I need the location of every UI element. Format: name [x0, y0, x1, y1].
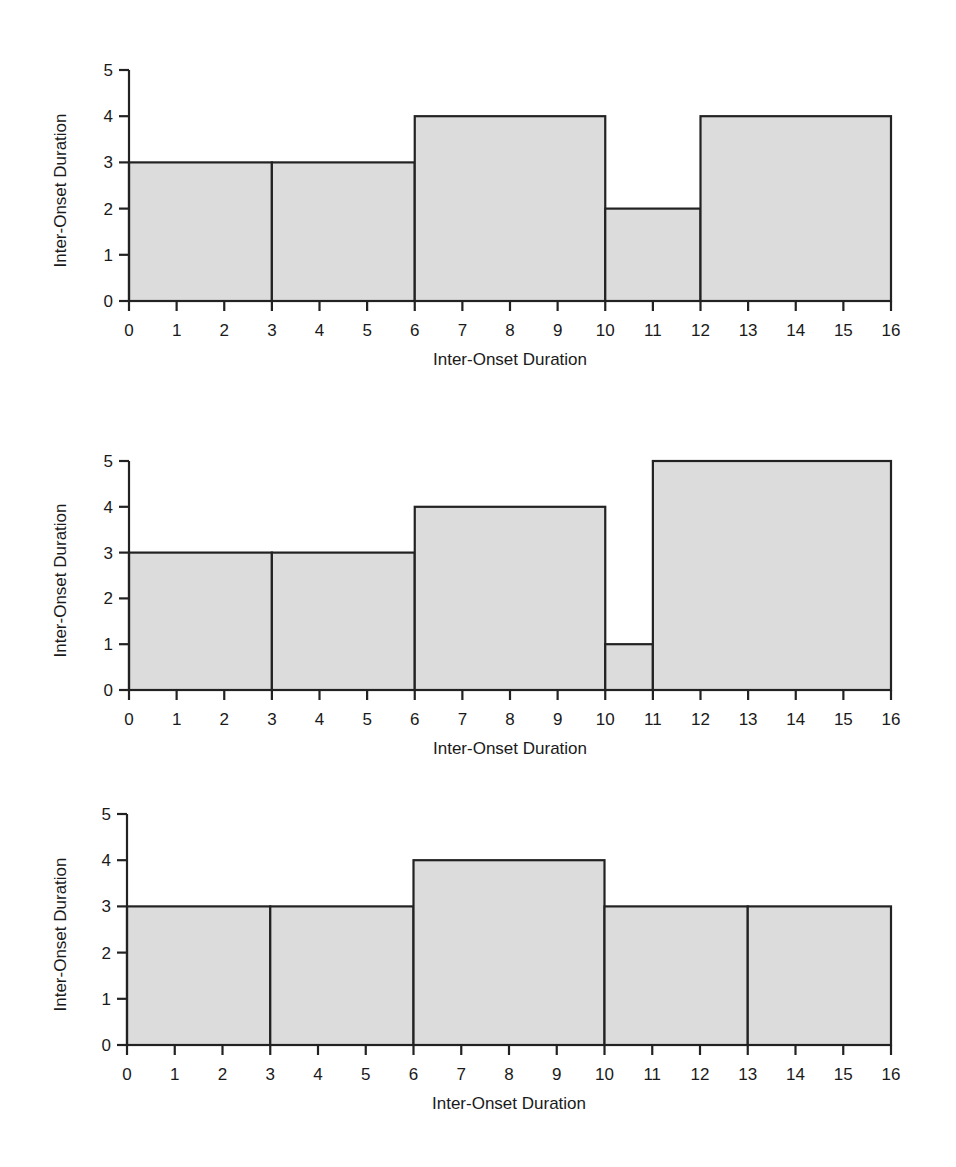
x-tick-label: 11 — [644, 321, 662, 340]
x-tick-label: 12 — [691, 321, 710, 340]
y-tick-label: 5 — [104, 61, 113, 80]
bar — [414, 860, 605, 1045]
chart-2: 012345012345678910111213141516Inter-Onse… — [51, 452, 900, 758]
chart-3: 012345012345678910111213141516Inter-Onse… — [51, 805, 900, 1113]
bar — [272, 162, 415, 301]
y-axis-title: Inter-Onset Duration — [51, 113, 70, 267]
x-tick-label: 16 — [882, 321, 901, 340]
x-tick-label: 9 — [553, 710, 562, 729]
x-tick-label: 12 — [691, 1065, 710, 1084]
x-tick-label: 11 — [643, 1065, 661, 1084]
bar — [272, 553, 415, 690]
y-tick-label: 5 — [104, 452, 113, 471]
x-tick-label: 16 — [882, 710, 901, 729]
x-tick-label: 2 — [220, 710, 229, 729]
x-tick-label: 5 — [362, 710, 371, 729]
x-tick-label: 13 — [738, 1065, 757, 1084]
bar — [415, 116, 606, 301]
x-tick-label: 1 — [170, 1065, 179, 1084]
x-tick-label: 12 — [691, 710, 710, 729]
y-tick-label: 2 — [104, 589, 113, 608]
x-tick-label: 10 — [596, 710, 615, 729]
y-tick-label: 4 — [102, 851, 111, 870]
x-tick-label: 7 — [458, 321, 467, 340]
x-tick-label: 6 — [409, 1065, 418, 1084]
x-tick-label: 15 — [834, 321, 853, 340]
y-tick-label: 1 — [104, 635, 113, 654]
x-axis-title: Inter-Onset Duration — [433, 350, 587, 369]
x-tick-label: 8 — [505, 710, 514, 729]
x-axis-title: Inter-Onset Duration — [433, 739, 587, 758]
x-tick-label: 0 — [124, 710, 133, 729]
y-tick-label: 0 — [102, 1036, 111, 1055]
x-tick-label: 14 — [786, 1065, 805, 1084]
x-tick-label: 4 — [313, 1065, 322, 1084]
x-tick-label: 4 — [315, 710, 324, 729]
x-tick-label: 3 — [266, 1065, 275, 1084]
y-tick-label: 1 — [102, 990, 111, 1009]
x-tick-label: 15 — [834, 710, 853, 729]
x-tick-label: 5 — [362, 321, 371, 340]
x-tick-label: 13 — [739, 321, 758, 340]
x-tick-label: 3 — [267, 710, 276, 729]
bar — [415, 507, 606, 690]
x-tick-label: 14 — [786, 321, 805, 340]
x-tick-label: 6 — [410, 710, 419, 729]
x-tick-label: 0 — [124, 321, 133, 340]
x-tick-label: 15 — [834, 1065, 853, 1084]
x-tick-label: 11 — [644, 710, 662, 729]
bar — [129, 162, 272, 301]
x-tick-label: 9 — [552, 1065, 561, 1084]
x-tick-label: 6 — [410, 321, 419, 340]
x-axis-title: Inter-Onset Duration — [432, 1094, 586, 1113]
y-tick-label: 4 — [104, 107, 113, 126]
y-axis-title: Inter-Onset Duration — [51, 503, 70, 657]
bar — [605, 209, 700, 301]
x-tick-label: 9 — [553, 321, 562, 340]
y-tick-label: 2 — [102, 944, 111, 963]
x-tick-label: 8 — [504, 1065, 513, 1084]
x-tick-label: 2 — [220, 321, 229, 340]
x-tick-label: 16 — [882, 1065, 901, 1084]
y-tick-label: 5 — [102, 805, 111, 824]
bar — [748, 906, 891, 1045]
bar — [605, 644, 653, 690]
bar — [701, 116, 892, 301]
x-tick-label: 5 — [361, 1065, 370, 1084]
x-tick-label: 4 — [315, 321, 324, 340]
x-tick-label: 10 — [595, 1065, 614, 1084]
x-tick-label: 3 — [267, 321, 276, 340]
y-tick-label: 4 — [104, 498, 113, 517]
x-tick-label: 10 — [596, 321, 615, 340]
y-tick-label: 0 — [104, 292, 113, 311]
x-tick-label: 13 — [739, 710, 758, 729]
bar — [129, 553, 272, 690]
x-tick-label: 2 — [218, 1065, 227, 1084]
y-axis-title: Inter-Onset Duration — [51, 857, 70, 1011]
x-tick-label: 7 — [457, 1065, 466, 1084]
chart-1: 012345012345678910111213141516Inter-Onse… — [51, 61, 900, 369]
histogram-chart-1: 012345012345678910111213141516Inter-Onse… — [0, 0, 956, 1167]
bar — [270, 906, 413, 1045]
y-tick-label: 3 — [104, 153, 113, 172]
y-tick-label: 0 — [104, 681, 113, 700]
x-tick-label: 0 — [122, 1065, 131, 1084]
y-tick-label: 2 — [104, 200, 113, 219]
x-tick-label: 14 — [786, 710, 805, 729]
bar — [127, 906, 270, 1045]
x-tick-label: 8 — [505, 321, 514, 340]
x-tick-label: 1 — [172, 321, 181, 340]
x-tick-label: 7 — [458, 710, 467, 729]
x-tick-label: 1 — [172, 710, 181, 729]
bar — [605, 906, 748, 1045]
bar — [653, 461, 891, 690]
y-tick-label: 3 — [104, 544, 113, 563]
y-tick-label: 3 — [102, 897, 111, 916]
y-tick-label: 1 — [104, 246, 113, 265]
